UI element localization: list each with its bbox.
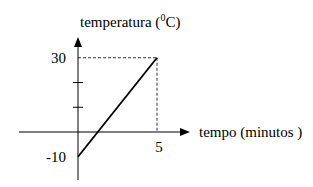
- x-axis-arrow: [180, 128, 190, 136]
- chart: 30-105 temperatura (0C) tempo (minutos ): [0, 0, 313, 187]
- x-axis-label: tempo (minutos ): [199, 124, 302, 141]
- y-tick-label: 30: [51, 50, 66, 66]
- series-line: [78, 58, 157, 157]
- y-axis-label: temperatura (0C): [80, 12, 180, 31]
- y-axis-arrow: [74, 37, 82, 47]
- x-tick-label: 5: [155, 139, 163, 155]
- y-tick-label: -10: [46, 149, 66, 165]
